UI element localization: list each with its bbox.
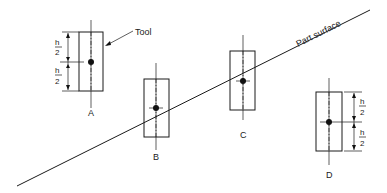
svg-text:2: 2 xyxy=(55,48,60,57)
svg-text:2: 2 xyxy=(55,77,60,86)
tool-label: Tool xyxy=(135,27,152,37)
position-label-d: D xyxy=(326,170,333,180)
svg-text:h: h xyxy=(55,38,59,47)
svg-text:h: h xyxy=(55,66,59,75)
center-point xyxy=(88,59,94,65)
svg-text:2: 2 xyxy=(360,108,365,117)
position-label-b: B xyxy=(153,152,159,162)
svg-text:h: h xyxy=(360,97,364,106)
tool-d: h 2 h 2 D xyxy=(316,78,366,180)
tool-position-diagram: Part surface h 2 h 2 A Tool B xyxy=(0,0,387,193)
tool-leader-line xyxy=(107,31,133,45)
part-surface-label: Part surface xyxy=(294,18,342,49)
tool-a: h 2 h 2 A xyxy=(55,20,103,118)
position-label-a: A xyxy=(88,108,94,118)
tool-c: C xyxy=(230,35,255,140)
svg-text:h: h xyxy=(360,128,364,137)
position-label-c: C xyxy=(240,130,247,140)
svg-text:2: 2 xyxy=(360,139,365,148)
